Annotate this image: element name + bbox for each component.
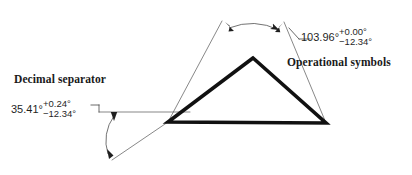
dimension-lower-tolerance-lower: −12.34° [43,109,76,119]
dimension-arc-lower [106,116,114,154]
extension-line-left-side [168,21,222,122]
dimension-value-upper-apex: 103.96°+0.00°−12.34° [301,27,372,46]
technical-drawing-figure: Decimal separator Operational symbols 35… [0,0,412,175]
extension-line-lower-diagonal [112,122,168,160]
dimension-value-lower-left: 35.41°+0.24°−12.34° [11,99,76,118]
dimension-lower-tolerance-upper: −12.34° [339,37,372,47]
dimension-tolerance-stack-lower: +0.24°−12.34° [43,99,76,118]
dimension-nominal-upper: 103.96° [301,31,339,43]
decimal-separator-callout-label: Decimal separator [14,73,106,85]
dimension-arc-upper [229,24,279,30]
operational-symbols-callout-label: Operational symbols [287,56,391,68]
dimension-tolerance-stack-upper: +0.00°−12.34° [339,27,372,46]
dimension-nominal-lower: 35.41° [11,103,43,115]
arrowhead-upper-right [275,23,283,32]
